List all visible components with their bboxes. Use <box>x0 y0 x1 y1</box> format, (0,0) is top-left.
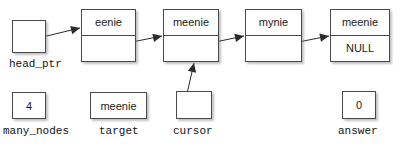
node-link-cell <box>246 36 301 61</box>
node1-to-node2-arrowhead <box>152 34 162 42</box>
list-node-4[interactable]: meenie NULL <box>330 9 390 62</box>
variable-box-many-nodes[interactable]: 4 <box>12 92 46 119</box>
node-data-cell: meenie <box>164 10 218 36</box>
variable-box-head-ptr[interactable] <box>12 20 46 53</box>
variable-label-many-nodes: many_nodes <box>3 126 69 137</box>
variable-box-target[interactable]: meenie <box>90 92 147 119</box>
variable-label-answer: answer <box>338 126 378 137</box>
node-link-cell <box>82 36 135 61</box>
list-node-3[interactable]: mynie <box>245 9 302 62</box>
node3-to-node4-arrowhead <box>319 34 329 42</box>
cursor-to-node2-arrowhead <box>188 63 196 73</box>
node-link-cell: NULL <box>331 36 389 61</box>
list-node-1[interactable]: eenie <box>81 9 136 62</box>
variable-label-head-ptr: head_ptr <box>9 59 62 70</box>
node-data-cell: eenie <box>82 10 135 36</box>
variable-label-target: target <box>99 126 139 137</box>
node-link-cell <box>164 36 218 61</box>
list-node-2[interactable]: meenie <box>163 9 219 62</box>
diagram-canvas: eenie meenie mynie meenie NULL head_ptr … <box>0 0 404 146</box>
node2-to-node3-arrowhead <box>234 34 244 42</box>
node-data-cell: meenie <box>331 10 389 36</box>
variable-box-answer[interactable]: 0 <box>342 91 376 119</box>
variable-box-cursor[interactable] <box>176 91 212 119</box>
head-to-node1-arrowhead <box>70 26 80 34</box>
node-data-cell: mynie <box>246 10 301 36</box>
variable-label-cursor: cursor <box>173 126 213 137</box>
